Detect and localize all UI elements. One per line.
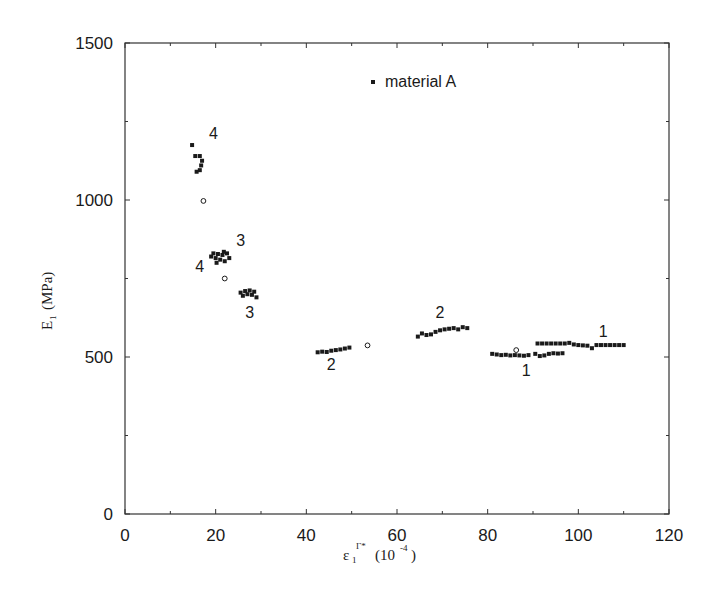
square-point <box>254 295 258 299</box>
x-tick-label: 80 <box>478 526 497 545</box>
y-axis-symbol: E <box>39 321 55 330</box>
cluster-label: 1 <box>522 362 531 379</box>
square-point <box>343 347 347 351</box>
square-point <box>522 354 526 358</box>
square-point <box>490 352 494 356</box>
cluster-label: 2 <box>327 356 336 373</box>
square-point <box>526 353 530 357</box>
square-point <box>216 252 220 256</box>
square-point <box>604 343 608 347</box>
cluster-label: 2 <box>436 304 445 321</box>
square-point <box>558 341 562 345</box>
square-point <box>617 343 621 347</box>
square-point <box>248 288 252 292</box>
open-circle-point <box>222 276 227 281</box>
square-point <box>536 341 540 345</box>
square-point <box>495 352 499 356</box>
square-point <box>545 341 549 345</box>
square-point <box>200 159 204 163</box>
square-point <box>452 326 456 330</box>
y-axis-title: E 1 (MPa) <box>39 272 58 330</box>
x-tick-label: 0 <box>120 526 129 545</box>
square-point <box>199 163 203 167</box>
square-point <box>538 354 542 358</box>
square-point <box>245 292 249 296</box>
x-tick-label: 40 <box>297 526 316 545</box>
square-point <box>329 349 333 353</box>
x-axis-unit-exponent: -4 <box>400 543 408 553</box>
x-axis-symbol: ε <box>343 547 349 563</box>
data-points <box>190 143 626 358</box>
square-point <box>594 343 598 347</box>
square-point <box>252 290 256 294</box>
square-point <box>198 154 202 158</box>
x-tick-label: 20 <box>206 526 225 545</box>
cluster-label: 4 <box>195 258 204 275</box>
square-point <box>572 342 576 346</box>
square-point <box>533 352 537 356</box>
square-point <box>461 325 465 329</box>
square-point <box>599 343 603 347</box>
square-point <box>456 327 460 331</box>
square-point <box>556 352 560 356</box>
square-point <box>438 328 442 332</box>
square-point <box>420 331 424 335</box>
y-tick-label: 500 <box>85 348 113 367</box>
square-point <box>513 353 517 357</box>
scatter-chart: 020406080100120050010001500 44332211 mat… <box>0 0 717 604</box>
square-point <box>465 326 469 330</box>
square-point <box>218 258 222 262</box>
square-point <box>551 351 555 355</box>
x-axis-unit: (10 <box>375 547 395 564</box>
square-point <box>447 327 451 331</box>
square-point <box>195 170 199 174</box>
x-axis-subscript: 1 <box>352 555 357 565</box>
x-tick-label: 120 <box>655 526 683 545</box>
square-point <box>211 251 215 255</box>
square-point <box>613 343 617 347</box>
x-axis-unit-close: ) <box>411 547 416 564</box>
square-point <box>320 350 324 354</box>
open-circle-point <box>514 348 519 353</box>
square-point <box>560 351 564 355</box>
square-point <box>347 346 351 350</box>
legend-marker <box>371 80 375 84</box>
x-axis-title: ε 1 Γ* (10 -4 ) <box>343 541 416 565</box>
square-point <box>563 341 567 345</box>
square-point <box>542 353 546 357</box>
square-point <box>567 341 571 345</box>
square-point <box>581 343 585 347</box>
square-point <box>517 353 521 357</box>
open-circle-point <box>365 343 370 348</box>
square-point <box>554 341 558 345</box>
square-point <box>429 332 433 336</box>
square-point <box>504 353 508 357</box>
cluster-label: 4 <box>209 125 218 142</box>
square-point <box>499 353 503 357</box>
square-point <box>622 343 626 347</box>
square-point <box>590 346 594 350</box>
square-point <box>241 294 245 298</box>
y-axis-subscript: 1 <box>48 316 58 321</box>
axis-tick-labels: 020406080100120050010001500 <box>75 34 683 545</box>
square-point <box>547 352 551 356</box>
y-tick-label: 1000 <box>75 191 113 210</box>
y-tick-label: 0 <box>104 505 113 524</box>
square-point <box>443 327 447 331</box>
square-point <box>549 341 553 345</box>
square-point <box>193 154 197 158</box>
open-circle-point <box>201 199 206 204</box>
axis-ticks <box>125 43 669 514</box>
square-point <box>316 350 320 354</box>
square-point <box>190 143 194 147</box>
x-axis-superscript: Γ* <box>356 541 366 551</box>
y-tick-label: 1500 <box>75 34 113 53</box>
x-tick-label: 100 <box>564 526 592 545</box>
square-point <box>223 259 227 263</box>
square-point <box>214 256 218 260</box>
legend: material A <box>371 73 456 90</box>
square-point <box>227 256 231 260</box>
legend-label: material A <box>385 73 456 90</box>
square-point <box>338 347 342 351</box>
square-point <box>334 348 338 352</box>
